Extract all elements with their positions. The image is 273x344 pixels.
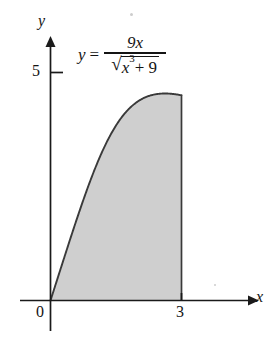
equation-annotation: y = 9x √ x3+ 9 [78, 34, 166, 75]
origin-label: 0 [36, 303, 44, 321]
radical-icon: √ x3+ 9 [111, 55, 159, 76]
equation-lhs: y [78, 46, 90, 63]
x-tick-label-3: 3 [176, 303, 184, 321]
radicand: x3+ 9 [121, 56, 159, 76]
equation-fraction: 9x √ x3+ 9 [104, 34, 166, 75]
radicand-tail: + 9 [135, 57, 157, 76]
equation-denominator: √ x3+ 9 [109, 54, 161, 76]
x-axis-label: x [256, 288, 263, 306]
y-axis-arrowhead [46, 36, 56, 47]
scan-speck [214, 284, 216, 286]
scan-speck [130, 13, 133, 16]
y-tick-label-5: 5 [32, 62, 40, 80]
radicand-exponent: 3 [129, 52, 135, 64]
y-axis-label: y [38, 12, 45, 30]
equation-relation: = [90, 46, 105, 63]
equation-numerator: 9x [123, 34, 147, 52]
